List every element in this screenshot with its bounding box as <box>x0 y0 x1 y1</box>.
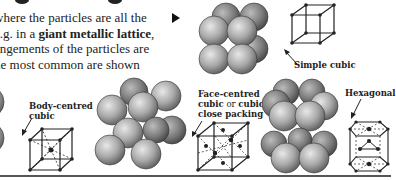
bullet-triangle-icon <box>172 13 180 23</box>
body-centred-wireframe <box>28 126 76 174</box>
label-simple-cubic: Simple cubic <box>294 60 356 70</box>
hexagonal-arrow <box>349 98 363 120</box>
paragraph-line-4: he most common are shown <box>0 57 184 73</box>
body-centred-spheres <box>0 84 20 174</box>
top-partial-spheres <box>0 0 130 6</box>
label-text: cubic <box>238 99 264 109</box>
label-face-centred-cubic: Face-centred cubic or cubic close packin… <box>198 89 264 119</box>
face-centred-wireframe <box>196 120 252 172</box>
label-text: or <box>224 99 239 109</box>
paragraph-line-3: angements of the particles are <box>0 41 184 57</box>
paragraph-line-1: where the particles are all the <box>0 10 184 26</box>
body-paragraph: where the particles are all the e.g. in … <box>0 10 184 72</box>
paragraph-line-2: e.g. in a giant metallic lattice, <box>0 26 184 42</box>
label-line: Body-centred <box>29 101 93 111</box>
label-line: cubic <box>29 111 93 121</box>
face-centred-spheres <box>94 78 189 170</box>
hexagonal-wireframe <box>348 119 390 175</box>
label-line: Face-centred <box>198 89 264 99</box>
hexagonal-spheres <box>262 80 340 176</box>
label-line: close packing <box>198 109 264 119</box>
simple-cubic-wireframe <box>290 3 340 48</box>
label-line: cubic or cubic <box>198 99 264 109</box>
paragraph-text: e.g. in a <box>0 26 38 41</box>
label-text: cubic <box>198 99 224 109</box>
simple-cubic-spheres <box>196 3 276 73</box>
section-divider <box>0 175 391 177</box>
label-body-centred-cubic: Body-centred cubic <box>29 101 93 121</box>
paragraph-text: , <box>151 26 154 41</box>
bold-term: giant metallic lattice <box>38 26 151 41</box>
label-hexagonal: Hexagonal <box>345 88 396 98</box>
